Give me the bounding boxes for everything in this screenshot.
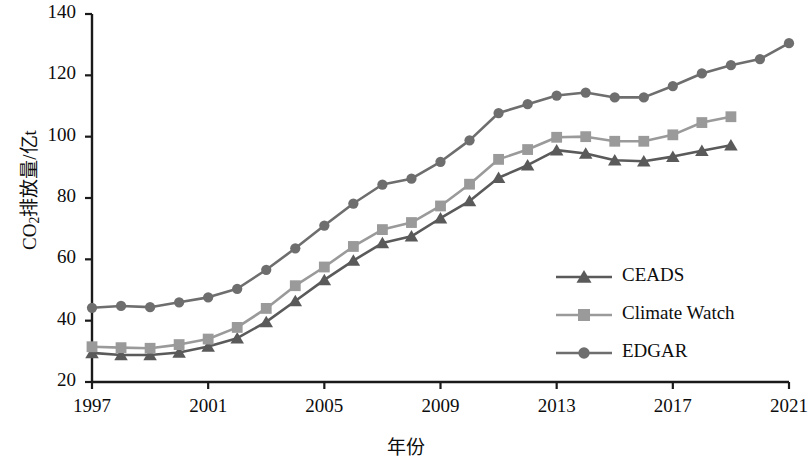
data-point-climate-watch [174, 339, 185, 350]
data-point-edgar [552, 90, 562, 100]
data-point-edgar [755, 54, 765, 64]
y-axis-tick-label: 140 [24, 1, 76, 23]
data-point-ceads [405, 230, 419, 241]
legend-label-ceads: CEADS [622, 264, 684, 286]
legend-marks-group [556, 270, 612, 359]
data-point-climate-watch [406, 217, 417, 228]
data-point-edgar [581, 87, 591, 97]
legend-label-edgar: EDGAR [622, 340, 687, 362]
data-point-ceads [230, 332, 244, 343]
data-point-edgar [522, 99, 532, 109]
data-point-climate-watch [522, 144, 533, 155]
data-point-edgar [493, 108, 503, 118]
data-point-climate-watch [203, 334, 214, 345]
data-point-edgar [610, 92, 620, 102]
x-axis-tick-label: 1997 [57, 395, 127, 417]
data-point-climate-watch [87, 341, 98, 352]
data-point-edgar [726, 60, 736, 70]
data-point-edgar [435, 157, 445, 167]
y-axis-title-subscript: 2 [27, 217, 42, 224]
y-axis-tick-label: 60 [24, 246, 76, 268]
data-point-climate-watch [145, 343, 156, 354]
data-point-climate-watch [435, 201, 446, 212]
data-point-climate-watch [726, 111, 737, 122]
y-axis-tick-label: 20 [24, 369, 76, 391]
data-point-climate-watch [638, 136, 649, 147]
data-point-climate-watch [609, 136, 620, 147]
legend-marker-edgar [578, 347, 589, 358]
data-point-edgar [697, 68, 707, 78]
x-axis-tick-label: 2021 [754, 395, 811, 417]
data-point-climate-watch [551, 132, 562, 143]
y-axis-tick-label: 40 [24, 308, 76, 330]
legend-label-climate-watch: Climate Watch [622, 302, 735, 324]
series-line-edgar [92, 43, 789, 308]
data-point-climate-watch [290, 280, 301, 291]
y-axis-tick-label: 120 [24, 62, 76, 84]
data-point-climate-watch [319, 262, 330, 273]
x-axis-title: 年份 [0, 432, 811, 459]
data-point-edgar [406, 174, 416, 184]
legend-marker-climate-watch [578, 309, 590, 321]
data-point-ceads [434, 212, 448, 223]
data-point-climate-watch [580, 131, 591, 142]
data-point-edgar [203, 292, 213, 302]
x-axis-tick-label: 2013 [522, 395, 592, 417]
data-point-climate-watch [696, 117, 707, 128]
data-point-edgar [348, 198, 358, 208]
data-point-climate-watch [232, 322, 243, 333]
data-point-climate-watch [493, 154, 504, 165]
data-point-edgar [319, 220, 329, 230]
data-point-edgar [639, 92, 649, 102]
data-point-climate-watch [464, 179, 475, 190]
data-point-edgar [116, 301, 126, 311]
data-point-ceads [724, 139, 738, 150]
data-point-edgar [232, 284, 242, 294]
y-axis-tick-label: 80 [24, 185, 76, 207]
data-point-edgar [145, 302, 155, 312]
data-point-climate-watch [261, 303, 272, 314]
x-axis-tick-label: 2001 [173, 395, 243, 417]
data-point-edgar [87, 303, 97, 313]
x-axis-tick-label: 2009 [406, 395, 476, 417]
data-point-edgar [290, 243, 300, 253]
data-point-edgar [261, 265, 271, 275]
data-point-ceads [347, 254, 361, 265]
data-point-ceads [492, 172, 506, 183]
data-point-edgar [668, 81, 678, 91]
data-point-climate-watch [667, 129, 678, 140]
data-point-edgar [174, 297, 184, 307]
x-axis-tick-label: 2005 [289, 395, 359, 417]
data-point-climate-watch [377, 224, 388, 235]
data-point-climate-watch [348, 241, 359, 252]
data-point-edgar [377, 179, 387, 189]
data-point-ceads [521, 159, 535, 170]
y-axis-tick-label: 100 [24, 124, 76, 146]
data-point-edgar [784, 38, 794, 48]
data-point-edgar [464, 135, 474, 145]
chart-container: CO2排放量/亿t 年份 204060801001201401997200120… [0, 0, 811, 466]
x-axis-tick-label: 2017 [638, 395, 708, 417]
data-point-climate-watch [116, 342, 127, 353]
